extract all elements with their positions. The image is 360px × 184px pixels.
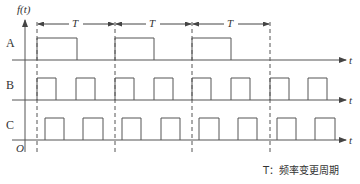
period-label-2: T bbox=[149, 17, 156, 29]
pulse bbox=[192, 38, 231, 60]
frequency-hopping-timing-diagram: f(t) O T T T A B C t t t T：频率变更周期 bbox=[0, 0, 360, 184]
pulse bbox=[37, 78, 56, 100]
pulse bbox=[122, 118, 141, 140]
time-label-a: t bbox=[349, 54, 353, 66]
time-label-c: t bbox=[349, 134, 353, 146]
period-label-1: T bbox=[72, 17, 79, 29]
pulse bbox=[76, 78, 95, 100]
pulse bbox=[161, 118, 180, 140]
pulse bbox=[231, 78, 250, 100]
origin-label: O bbox=[16, 142, 24, 154]
waveform-c bbox=[45, 118, 335, 140]
pulse bbox=[315, 118, 335, 140]
time-label-b: t bbox=[349, 94, 353, 106]
pulse bbox=[37, 38, 77, 60]
period-label-3: T bbox=[227, 17, 234, 29]
pulse bbox=[83, 118, 103, 140]
pulse bbox=[154, 78, 173, 100]
pulse bbox=[45, 118, 64, 140]
row-label-c: C bbox=[6, 118, 14, 132]
row-label-b: B bbox=[6, 78, 14, 92]
y-axis-label: f(t) bbox=[17, 3, 31, 16]
pulse bbox=[115, 38, 154, 60]
pulse bbox=[199, 118, 219, 140]
pulse bbox=[192, 78, 211, 100]
legend-text: T：频率变更周期 bbox=[262, 164, 339, 176]
waveform-b bbox=[37, 78, 327, 100]
pulse bbox=[277, 118, 296, 140]
waveform-a bbox=[37, 38, 231, 60]
pulse bbox=[270, 78, 289, 100]
pulse bbox=[115, 78, 134, 100]
row-label-a: A bbox=[6, 36, 15, 50]
pulse bbox=[238, 118, 257, 140]
pulse bbox=[308, 78, 327, 100]
